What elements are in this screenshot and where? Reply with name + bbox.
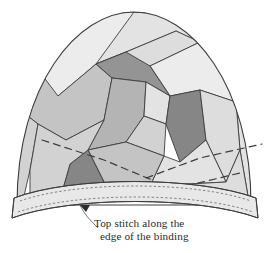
caption-line-2: edge of the binding	[100, 230, 189, 242]
hat-crown-binding-diagram: Top stitch along the edge of the binding	[0, 0, 269, 253]
pieced-crown-dome	[17, 12, 251, 205]
illustration-root: Top stitch along the edge of the binding	[0, 0, 269, 253]
caption-line-1: Top stitch along the	[94, 217, 184, 229]
